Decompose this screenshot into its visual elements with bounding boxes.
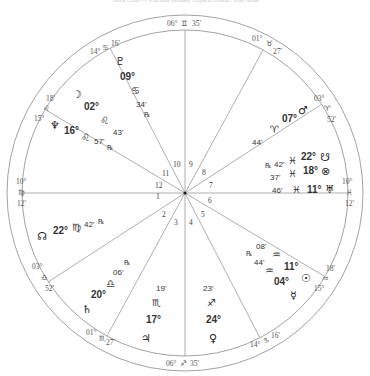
svg-text:07°: 07° (282, 113, 297, 124)
svg-text:♋: ♋ (131, 85, 140, 96)
svg-text:14°: 14° (250, 340, 261, 349)
neptune-icon: ♆ (50, 119, 60, 132)
svg-text:♈: ♈ (324, 104, 331, 113)
mercury-icon: ☿ (290, 289, 297, 302)
svg-text:11°: 11° (284, 261, 299, 272)
planets: ♇ 09° ♋ 34' ℞ ☽ 02° ♌ 43' ♆ 16° ♌ 57' ℞ … (37, 55, 335, 345)
svg-text:℞: ℞ (107, 144, 113, 152)
svg-text:46': 46' (272, 186, 283, 195)
svg-text:04°: 04° (274, 276, 289, 287)
svg-text:℞: ℞ (265, 162, 271, 170)
svg-text:12': 12' (345, 199, 355, 208)
svg-text:11°: 11° (307, 184, 322, 195)
svg-text:℞: ℞ (98, 218, 104, 226)
planet-saturn: ℞ 06' ♎ 20° ♄ (82, 259, 130, 316)
svg-text:17°: 17° (146, 314, 161, 325)
planet-north-node: ☊ 22° ♍ 42' ℞ (37, 218, 104, 243)
svg-text:52': 52' (45, 284, 55, 293)
house-number-1: 1 (156, 192, 160, 201)
svg-text:01°: 01° (252, 34, 263, 43)
svg-text:34': 34' (136, 100, 147, 109)
center-dot (183, 191, 186, 194)
svg-text:06°: 06° (166, 359, 177, 368)
cusp-label-11: 14° ♋ 16' (90, 39, 121, 56)
svg-text:♌: ♌ (81, 132, 90, 143)
planet-moon: ☽ 02° ♌ 43' (72, 88, 124, 137)
svg-text:♒: ♒ (322, 274, 329, 283)
planet-mars: ♂ 07° ♈ 44' (252, 104, 308, 147)
cusp-label-8: 03° ♈ 52' (314, 94, 337, 124)
svg-text:♈: ♈ (270, 124, 279, 135)
svg-text:18': 18' (46, 94, 56, 103)
svg-text:01°: 01° (86, 328, 97, 337)
cusp-label-10: 06° ♊ 35' (167, 19, 202, 28)
svg-text:12': 12' (17, 199, 27, 208)
svg-text:18°: 18° (303, 165, 318, 176)
svg-text:♒: ♒ (265, 265, 274, 276)
cusp-label-7: 10° ♓ 12' (342, 177, 355, 208)
house-number-5: 5 (201, 210, 205, 219)
house-number-2: 2 (162, 210, 166, 219)
pluto-icon: ♇ (115, 55, 125, 68)
svg-text:14°: 14° (90, 47, 101, 56)
planet-uranus: ♅ 11° ♓ 46' (272, 183, 335, 196)
uranus-icon: ♅ (325, 183, 335, 196)
svg-text:10°: 10° (16, 177, 27, 186)
house-number-10: 10 (173, 160, 181, 169)
jupiter-icon: ♃ (141, 332, 151, 345)
fortune-icon: ⊗ (321, 165, 330, 178)
planet-jupiter: 19' ♏ 17° ♃ (141, 284, 167, 345)
svg-text:42': 42' (84, 220, 95, 229)
svg-text:♐: ♐ (207, 297, 216, 308)
svg-text:09°: 09° (120, 71, 135, 82)
svg-text:23': 23' (203, 284, 214, 293)
svg-text:♌: ♌ (100, 115, 109, 126)
sun-icon: ☉ (301, 272, 311, 285)
svg-text:27': 27' (106, 338, 116, 347)
moon-icon: ☽ (72, 88, 82, 101)
svg-text:19': 19' (156, 284, 167, 293)
svg-text:10°: 10° (342, 177, 353, 186)
svg-text:03°: 03° (32, 262, 43, 271)
house-number-9: 9 (189, 160, 193, 169)
saturn-icon: ♄ (82, 303, 92, 316)
svg-text:♎: ♎ (41, 273, 48, 282)
svg-text:22°: 22° (53, 225, 68, 236)
svg-text:♍: ♍ (72, 222, 81, 233)
svg-text:44': 44' (254, 258, 265, 267)
natal-chart-wheel: 1 2 3 4 5 6 7 8 9 10 11 12 06° ♊ 35' 14°… (0, 0, 370, 376)
svg-text:♓: ♓ (288, 168, 297, 179)
svg-text:06°: 06° (167, 19, 178, 28)
svg-text:♎: ♎ (106, 278, 115, 289)
svg-text:♑: ♑ (263, 336, 270, 345)
svg-text:16': 16' (271, 331, 281, 340)
svg-text:℞: ℞ (124, 259, 130, 267)
house-number-6: 6 (208, 196, 212, 205)
svg-text:52': 52' (327, 115, 337, 124)
svg-text:22°: 22° (301, 151, 316, 162)
svg-text:37': 37' (270, 173, 281, 182)
svg-text:♏: ♏ (99, 334, 106, 343)
svg-text:20°: 20° (91, 289, 106, 300)
svg-text:♓: ♓ (288, 155, 297, 166)
planet-pluto: ♇ 09° ♋ 34' ℞ (115, 55, 150, 119)
cusp-label-6: 18' ♒ 15° (314, 264, 336, 293)
svg-text:42': 42' (274, 160, 285, 169)
north-node-icon: ☊ (37, 230, 47, 243)
svg-text:15°: 15° (34, 114, 45, 123)
svg-text:16°: 16° (64, 125, 79, 136)
planet-venus: 23' ♐ 24° ♀ (203, 284, 221, 345)
svg-text:♒: ♒ (272, 249, 281, 260)
svg-text:♋: ♋ (102, 43, 109, 52)
house-number-12: 12 (155, 181, 163, 190)
svg-text:♓: ♓ (292, 184, 301, 195)
house-number-8: 8 (202, 168, 206, 177)
house-number-11: 11 (162, 169, 169, 178)
svg-text:♐: ♐ (180, 359, 187, 368)
house-number-3: 3 (174, 218, 178, 227)
svg-text:℞: ℞ (144, 111, 150, 119)
house-number-4: 4 (189, 218, 193, 227)
svg-text:♉: ♉ (266, 39, 273, 48)
svg-text:♊: ♊ (181, 19, 188, 28)
svg-text:℞: ℞ (246, 250, 252, 258)
